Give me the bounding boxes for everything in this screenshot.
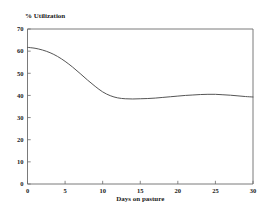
plot-frame-path (28, 29, 254, 184)
x-tick-label: 20 (175, 187, 182, 194)
x-axis-title: Days on pasture (116, 195, 164, 203)
y-tick-label: 10 (17, 158, 24, 165)
utilization-curve (28, 47, 254, 99)
x-tick-label: 25 (212, 187, 219, 194)
y-axis-title: % Utilization (25, 12, 65, 20)
plot-frame (28, 29, 254, 184)
y-tick-label: 20 (17, 136, 24, 143)
x-tick-label: 10 (99, 187, 106, 194)
x-tick-label: 5 (63, 187, 67, 194)
x-tick-label: 15 (137, 187, 144, 194)
chart-figure: % Utilization 010203040506070 0510152025… (0, 0, 272, 215)
y-tick-label: 50 (17, 70, 24, 77)
y-axis-tick-labels: 010203040506070 (17, 25, 24, 187)
x-tick-label: 0 (26, 187, 29, 194)
y-tick-label: 40 (17, 92, 24, 99)
x-tick-label: 30 (250, 187, 257, 194)
y-tick-label: 60 (17, 47, 24, 54)
y-tick-label: 0 (20, 180, 23, 187)
y-axis-ticks (28, 29, 31, 184)
x-axis-tick-labels: 051015202530 (26, 187, 256, 194)
utilization-line-chart: % Utilization 010203040506070 0510152025… (0, 0, 272, 215)
y-tick-label: 30 (17, 114, 24, 121)
y-tick-label: 70 (17, 25, 24, 32)
x-axis-ticks (28, 181, 254, 184)
